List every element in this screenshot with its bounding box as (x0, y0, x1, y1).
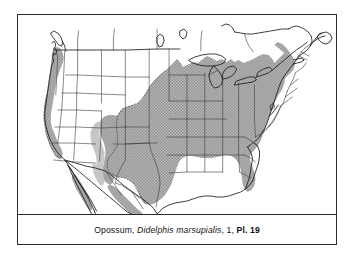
range-map-figure: Opossum, Didelphis marsupialis, 1, Pl. 1… (17, 14, 337, 245)
caption-bar: Opossum, Didelphis marsupialis, 1, Pl. 1… (18, 215, 336, 244)
caption-scientific-name: Didelphis marsupialis (137, 225, 221, 235)
caption-separator: , 1, (221, 225, 236, 235)
caption-plate-label: Pl. 19 (237, 225, 260, 235)
caption-common-name: Opossum, (94, 225, 134, 235)
figure-caption: Opossum, Didelphis marsupialis, 1, Pl. 1… (94, 225, 260, 235)
north-america-range-map (18, 15, 336, 214)
map-panel (18, 15, 336, 214)
